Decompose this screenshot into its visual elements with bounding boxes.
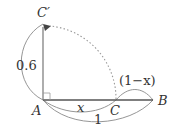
label-a: A [32,104,41,117]
right-angle-marker [43,93,50,100]
diagram-canvas: C′ 0.6 (1−x) A x C B 1 [0,0,176,133]
label-c-prime: C′ [37,6,50,19]
rotation-arc-dotted [50,26,116,99]
label-ac-length: x [77,101,84,114]
label-ab-length: 1 [94,113,102,126]
brace-arc-cb [116,90,153,101]
label-b: B [158,94,168,107]
label-cb-length: (1−x) [119,74,156,87]
label-ac-prime-length: 0.6 [16,59,37,72]
label-c: C [110,104,120,117]
arrowhead-icon [43,24,51,31]
